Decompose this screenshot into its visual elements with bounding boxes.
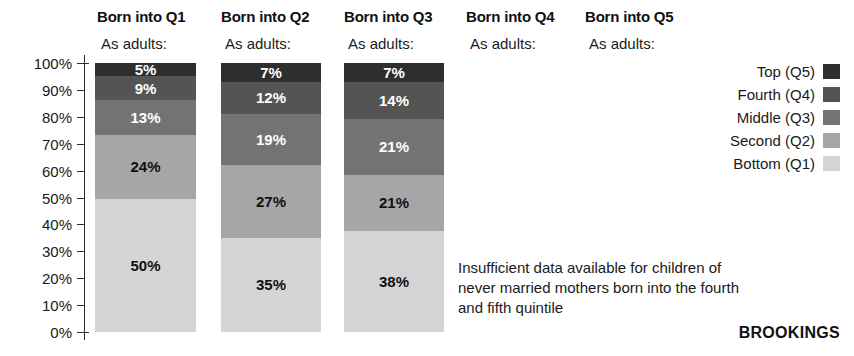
legend-label: Middle (Q3) bbox=[737, 109, 815, 126]
bar-segment-label: 7% bbox=[383, 65, 405, 80]
brookings-logo: BROOKINGS bbox=[739, 324, 840, 342]
bar-segment-q3-middle[interactable]: 21% bbox=[344, 119, 444, 175]
bar-segment-label: 50% bbox=[130, 258, 160, 273]
bar-segment-label: 12% bbox=[256, 90, 286, 105]
bar-segment-q2-middle[interactable]: 19% bbox=[221, 114, 321, 165]
bar-segment-q2-fourth[interactable]: 12% bbox=[221, 82, 321, 114]
legend-item-top-q5[interactable]: Top (Q5) bbox=[640, 60, 840, 83]
bar-segment-label: 7% bbox=[260, 65, 282, 80]
legend-label: Second (Q2) bbox=[730, 132, 815, 149]
bar-segment-label: 14% bbox=[379, 93, 409, 108]
bar-segment-label: 27% bbox=[256, 194, 286, 209]
legend-item-fourth-q4[interactable]: Fourth (Q4) bbox=[640, 83, 840, 106]
bar-segment-q1-second[interactable]: 24% bbox=[95, 135, 196, 199]
legend-label: Fourth (Q4) bbox=[737, 86, 815, 103]
bar-segment-q2-second[interactable]: 27% bbox=[221, 165, 321, 238]
stacked-bar-q3[interactable]: 7% 14% 21% 21% 38% bbox=[344, 63, 444, 332]
legend-swatch-icon bbox=[823, 156, 840, 171]
bar-segment-q3-second[interactable]: 21% bbox=[344, 175, 444, 231]
bar-segment-q3-top[interactable]: 7% bbox=[344, 63, 444, 82]
bar-segment-label: 24% bbox=[130, 159, 160, 174]
legend-item-middle-q3[interactable]: Middle (Q3) bbox=[640, 106, 840, 129]
bar-segment-q2-bottom[interactable]: 35% bbox=[221, 238, 321, 332]
note-line-3: and fifth quintile bbox=[458, 298, 828, 318]
bar-segment-label: 21% bbox=[379, 195, 409, 210]
bar-segment-label: 9% bbox=[135, 81, 157, 96]
legend-swatch-icon bbox=[823, 110, 840, 125]
legend-item-second-q2[interactable]: Second (Q2) bbox=[640, 129, 840, 152]
bar-segment-label: 35% bbox=[256, 277, 286, 292]
stacked-bar-q1[interactable]: 5% 9% 13% 24% 50% bbox=[95, 63, 196, 332]
bar-segment-q1-bottom[interactable]: 50% bbox=[95, 199, 196, 332]
legend-swatch-icon bbox=[823, 64, 840, 79]
bar-segment-label: 38% bbox=[379, 274, 409, 289]
bar-segment-label: 5% bbox=[135, 63, 157, 76]
note-line-2: never married mothers born into the four… bbox=[458, 278, 828, 298]
bar-segment-q1-fourth[interactable]: 9% bbox=[95, 76, 196, 100]
bar-segment-q3-bottom[interactable]: 38% bbox=[344, 231, 444, 332]
bar-segment-q2-top[interactable]: 7% bbox=[221, 63, 321, 82]
bar-segment-q1-middle[interactable]: 13% bbox=[95, 100, 196, 135]
bar-segment-q1-top[interactable]: 5% bbox=[95, 63, 196, 76]
stacked-bar-q2[interactable]: 7% 12% 19% 27% 35% bbox=[221, 63, 321, 332]
insufficient-data-note: Insufficient data available for children… bbox=[458, 258, 828, 318]
legend-swatch-icon bbox=[823, 87, 840, 102]
bar-segment-label: 13% bbox=[130, 110, 160, 125]
bar-segment-label: 21% bbox=[379, 139, 409, 154]
legend-swatch-icon bbox=[823, 133, 840, 148]
legend-label: Top (Q5) bbox=[757, 63, 815, 80]
legend: Top (Q5) Fourth (Q4) Middle (Q3) Second … bbox=[640, 60, 840, 175]
note-line-1: Insufficient data available for children… bbox=[458, 258, 828, 278]
legend-item-bottom-q1[interactable]: Bottom (Q1) bbox=[640, 152, 840, 175]
bar-segment-q3-fourth[interactable]: 14% bbox=[344, 82, 444, 119]
bar-segment-label: 19% bbox=[256, 132, 286, 147]
legend-label: Bottom (Q1) bbox=[733, 155, 815, 172]
